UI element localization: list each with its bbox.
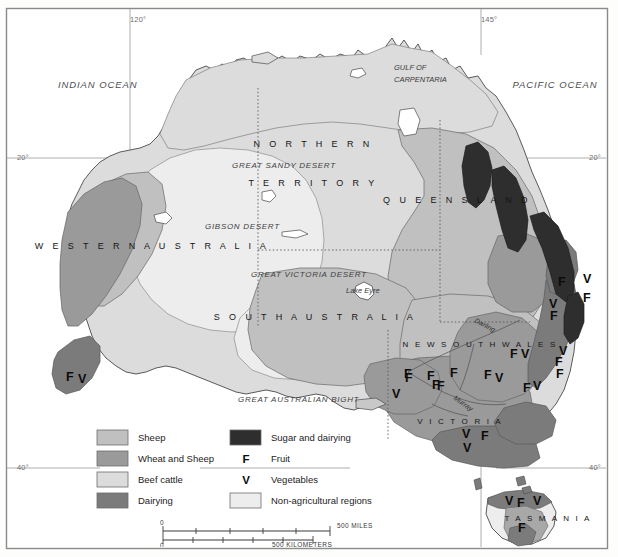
- legend-swatch-sheep: [97, 430, 128, 445]
- legend-key-fruit: F: [242, 453, 249, 465]
- crop-marker-f: F: [556, 367, 564, 381]
- crop-marker-f: F: [523, 381, 531, 395]
- crop-marker-f: F: [517, 496, 525, 510]
- legend-label-beef-cattle: Beef cattle: [138, 474, 183, 485]
- crop-marker-v: V: [392, 387, 401, 401]
- crop-marker-v: V: [583, 272, 592, 286]
- label-pacific-ocean: PACIFIC OCEAN: [513, 79, 598, 90]
- legend-swatch-sugar-and-dairying: [230, 430, 261, 445]
- crop-marker-f: F: [484, 368, 492, 382]
- label-south-australia: S O U T H A U S T R A L I A: [214, 312, 416, 322]
- legend-label-sheep: Sheep: [138, 432, 165, 443]
- crop-marker-f: F: [481, 429, 489, 443]
- label-territory: T E R R I T O R Y: [248, 178, 377, 188]
- lon-label-120: 120°: [130, 15, 146, 24]
- scale-miles-start: 0: [160, 519, 164, 526]
- legend-label-wheat-and-sheep: Wheat and Sheep: [138, 453, 214, 464]
- crop-marker-f: F: [558, 275, 566, 289]
- crop-marker-f: F: [550, 309, 558, 323]
- label-queensland: Q U E E N S L A N D: [383, 195, 531, 205]
- label-great-victoria-desert: GREAT VICTORIA DESERT: [251, 270, 367, 279]
- legend-label-non-agricultural-regions: Non-agricultural regions: [271, 495, 372, 506]
- map-page: 120° 145° 20° 20° 40° 40° INDIAN OCEAN P…: [0, 0, 618, 557]
- crop-marker-f: F: [66, 370, 74, 384]
- label-great-sandy-desert: GREAT SANDY DESERT: [232, 161, 336, 170]
- crop-marker-v: V: [559, 344, 568, 358]
- label-western-australia: W E S T E R N A U S T R A L I A: [35, 241, 269, 251]
- lat-label-40-left: 40°: [17, 463, 29, 472]
- label-indian-ocean: INDIAN OCEAN: [58, 79, 137, 90]
- australia-agriculture-map: 120° 145° 20° 20° 40° 40° INDIAN OCEAN P…: [0, 0, 618, 557]
- crop-marker-v: V: [462, 427, 471, 441]
- crop-marker-v: V: [533, 379, 542, 393]
- lon-label-145: 145°: [481, 15, 497, 24]
- legend-swatch-wheat-and-sheep: [97, 451, 128, 466]
- label-great-australian-bight: GREAT AUSTRALIAN BIGHT: [238, 395, 360, 404]
- scale-km-end: 500 KILOMETERS: [272, 541, 332, 548]
- label-gulf-of: GULF OF: [394, 63, 427, 72]
- crop-marker-f: F: [437, 379, 445, 393]
- crop-marker-v: V: [533, 494, 542, 508]
- legend-swatch-dairying: [97, 493, 128, 508]
- label-victoria: V I C T O R I A: [417, 417, 503, 426]
- crop-marker-v: V: [505, 494, 514, 508]
- crop-marker-f: F: [405, 371, 413, 385]
- scale-miles-end: 500 MILES: [337, 522, 373, 529]
- label-lake-eyre: Lake Eyre: [346, 286, 380, 295]
- label-new-south-wales: N E W S O U T H W A L E S: [403, 340, 558, 349]
- crop-marker-v: V: [521, 347, 530, 361]
- legend-label-vegetables: Vegetables: [271, 474, 318, 485]
- crop-marker-f: F: [583, 291, 591, 305]
- crop-marker-v: V: [78, 372, 87, 386]
- label-gibson-desert: GIBSON DESERT: [205, 222, 280, 231]
- legend-key-vegetables: V: [242, 474, 250, 486]
- tasmania-islet-2: [516, 476, 526, 486]
- crop-marker-f: F: [518, 521, 526, 535]
- lat-label-40-right: 40°: [589, 463, 601, 472]
- crop-marker-v: V: [495, 371, 504, 385]
- lat-label-20-left: 20°: [17, 153, 29, 162]
- legend-swatch-non-agricultural-regions: [230, 493, 261, 508]
- label-northern: N O R T H E R N: [253, 139, 372, 149]
- crop-marker-f: F: [510, 347, 518, 361]
- legend-label-dairying: Dairying: [138, 495, 173, 506]
- legend-swatch-beef-cattle: [97, 472, 128, 487]
- lat-label-20-right: 20°: [589, 153, 601, 162]
- legend-label-sugar-and-dairying: Sugar and dairying: [271, 432, 351, 443]
- crop-marker-v: V: [463, 441, 472, 455]
- crop-marker-f: F: [450, 366, 458, 380]
- legend-label-fruit: Fruit: [271, 453, 290, 464]
- label-carpentaria: CARPENTARIA: [394, 75, 447, 84]
